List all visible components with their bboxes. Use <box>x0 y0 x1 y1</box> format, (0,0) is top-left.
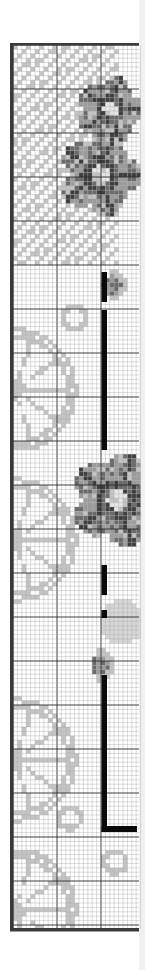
pattern-page <box>0 0 145 970</box>
cross-stitch-chart <box>0 0 145 970</box>
motif-layer <box>13 45 141 929</box>
